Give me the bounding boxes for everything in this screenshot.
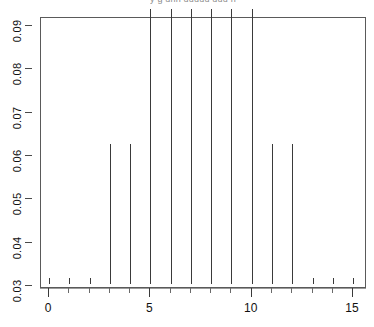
y-axis-tick-mark xyxy=(25,155,32,156)
x-axis-tick-label: 15 xyxy=(345,301,358,315)
x-axis-minor-tick xyxy=(190,288,191,293)
plot-frame xyxy=(40,17,366,288)
spike-bar xyxy=(191,9,192,284)
spike-bar xyxy=(110,144,111,284)
y-axis-tick-label: 0.06 xyxy=(11,150,23,173)
spike-bar xyxy=(211,9,212,284)
x-axis-minor-tick xyxy=(109,288,110,293)
x-axis-minor-tick xyxy=(89,288,90,293)
x-axis-tick-label: 0 xyxy=(45,301,52,315)
y-axis-tick-label: 0.09 xyxy=(11,20,23,43)
y-axis-tick-mark xyxy=(25,242,32,243)
x-axis-minor-tick xyxy=(312,288,313,293)
x-axis-minor-tick xyxy=(230,288,231,293)
x-axis-major-tick xyxy=(48,288,49,297)
spike-bar xyxy=(252,9,253,284)
x-axis-minor-tick xyxy=(68,288,69,293)
chart-title-clipped: y g unn uuuuu uuu n xyxy=(150,0,374,4)
chart-figure: y g unn uuuuu uuu n 0.030.040.050.060.07… xyxy=(0,0,374,327)
spike-bar xyxy=(90,278,91,284)
spike-bar xyxy=(272,144,273,284)
y-axis-tick-mark xyxy=(25,112,32,113)
y-axis-tick-mark xyxy=(25,25,32,26)
x-axis: 051015 xyxy=(0,288,374,327)
spike-bar xyxy=(150,9,151,284)
y-axis: 0.030.040.050.060.070.080.09 xyxy=(0,0,40,327)
spike-bar xyxy=(292,144,293,284)
y-axis-tick-label: 0.04 xyxy=(11,236,23,259)
spike-bar xyxy=(353,278,354,284)
spike-bar xyxy=(49,278,50,284)
x-axis-minor-tick xyxy=(170,288,171,293)
x-axis-major-tick xyxy=(149,288,150,297)
x-axis-minor-tick xyxy=(332,288,333,293)
y-axis-tick-label: 0.07 xyxy=(11,106,23,129)
spike-bar xyxy=(313,278,314,284)
x-axis-major-tick xyxy=(352,288,353,297)
spike-bar xyxy=(333,278,334,284)
spike-bar xyxy=(69,278,70,284)
spike-bar xyxy=(130,144,131,284)
x-axis-minor-tick xyxy=(129,288,130,293)
spike-series xyxy=(41,18,365,287)
y-axis-tick-label: 0.05 xyxy=(11,193,23,216)
spike-bar xyxy=(231,9,232,284)
x-axis-minor-tick xyxy=(210,288,211,293)
y-axis-tick-label: 0.08 xyxy=(11,63,23,86)
x-axis-major-tick xyxy=(251,288,252,297)
y-axis-tick-mark xyxy=(25,285,32,286)
y-axis-tick-mark xyxy=(25,68,32,69)
spike-bar xyxy=(171,9,172,284)
x-axis-tick-label: 10 xyxy=(244,301,257,315)
y-axis-tick-mark xyxy=(25,198,32,199)
x-axis-tick-label: 5 xyxy=(146,301,153,315)
x-axis-minor-tick xyxy=(271,288,272,293)
x-axis-minor-tick xyxy=(291,288,292,293)
